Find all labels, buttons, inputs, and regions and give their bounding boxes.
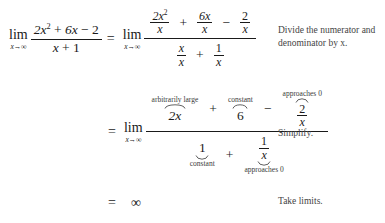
annotation-simplify: Simplify. bbox=[278, 127, 385, 140]
original-numerator: 2x2 + 6x − 2 bbox=[31, 23, 102, 39]
fraction: 2 x bbox=[297, 103, 307, 129]
fraction-x-over-x: x x bbox=[177, 42, 186, 68]
label-arbitrarily-large: arbitrarily large bbox=[152, 96, 199, 104]
simplified-numerator: arbitrarily large 2x + constant 6 − bbox=[146, 90, 328, 131]
limit-symbol: lim bbox=[9, 28, 28, 42]
divided-numerator: 2x2 x + 6x x − 2 x bbox=[144, 10, 256, 38]
denominator: x bbox=[214, 55, 224, 69]
labeled-term-6: constant 6 bbox=[228, 96, 253, 123]
term-1: 1 bbox=[190, 141, 215, 155]
labeled-term-2-over-x: approaches 0 2 x bbox=[283, 90, 322, 129]
fraction-2x2-over-x: 2x2 x bbox=[150, 10, 169, 36]
original-denominator: x + 1 bbox=[31, 39, 102, 56]
denominator: x bbox=[259, 148, 269, 162]
numerator: 2 bbox=[297, 103, 307, 116]
term-6x: 6x bbox=[65, 22, 78, 37]
limit-result-infinity: ∞ bbox=[131, 195, 141, 211]
numerator: 6x bbox=[197, 10, 212, 23]
divided-rational-expression: 2x2 x + 6x x − 2 x x x + 1 x bbox=[144, 10, 256, 68]
limit-symbol: lim bbox=[124, 121, 143, 135]
fraction: 1 x bbox=[259, 135, 269, 161]
plus-sign: + bbox=[219, 147, 241, 163]
numerator: 2 bbox=[240, 10, 250, 23]
equals-sign-3: = bbox=[108, 195, 116, 211]
numerator: 1 bbox=[214, 42, 224, 55]
divided-denominator: x x + 1 x bbox=[144, 38, 256, 68]
minus-sign: − bbox=[81, 22, 89, 37]
annotation-take-limits: Take limits. bbox=[278, 195, 385, 208]
derivation-step-3: = ∞ bbox=[108, 186, 278, 220]
fraction-2-over-x: 2 x bbox=[283, 103, 322, 129]
limit-operator-3: lim x→∞ bbox=[124, 121, 143, 144]
derivation-step-2: = lim x→∞ arbitrarily large 2x + constan… bbox=[108, 78, 278, 186]
derivation-step-1: lim x→∞ 2x2 + 6x − 2 x + 1 = lim x→∞ 2x2… bbox=[6, 0, 274, 78]
denominator: x bbox=[150, 22, 169, 36]
equals-sign-1: = bbox=[107, 31, 115, 47]
limit-operator-2: lim x→∞ bbox=[123, 28, 142, 51]
limit-subscript: x→∞ bbox=[9, 43, 28, 51]
fraction-6x-over-x: 6x x bbox=[197, 10, 212, 36]
denominator: x bbox=[240, 22, 250, 36]
numerator: 2x2 bbox=[150, 10, 169, 23]
exponent-2: 2 bbox=[164, 8, 168, 17]
labeled-term-2x: arbitrarily large 2x bbox=[152, 96, 199, 123]
limit-symbol: lim bbox=[123, 28, 142, 42]
minus-sign: − bbox=[257, 101, 279, 117]
original-rational-expression: 2x2 + 6x − 2 x + 1 bbox=[31, 23, 102, 55]
label-approaches-zero: approaches 0 bbox=[283, 90, 322, 98]
label-constant: constant bbox=[190, 160, 215, 168]
limit-subscript: x→∞ bbox=[124, 136, 143, 144]
labeled-term-1: 1 constant bbox=[190, 141, 215, 168]
term-2x: 2x bbox=[152, 109, 199, 123]
label-approaches-zero: approaches 0 bbox=[244, 166, 283, 174]
minus-sign: − bbox=[215, 15, 237, 31]
plus-sign: + bbox=[62, 40, 70, 55]
equals-sign-2: = bbox=[108, 124, 116, 140]
denominator: x bbox=[197, 22, 212, 36]
label-constant: constant bbox=[228, 96, 253, 104]
numerator: 1 bbox=[259, 135, 269, 148]
numerator: x bbox=[177, 42, 186, 55]
fraction-1-over-x: 1 x bbox=[214, 42, 224, 68]
term-x: x bbox=[53, 40, 59, 55]
term-2: 2 bbox=[92, 22, 99, 37]
fraction-2-over-x: 2 x bbox=[240, 10, 250, 36]
term-1: 1 bbox=[73, 40, 80, 55]
plus-sign: + bbox=[189, 47, 211, 63]
exponent-2: 2 bbox=[46, 21, 50, 30]
labeled-term-1-over-x: 1 x approaches 0 bbox=[244, 135, 283, 174]
denominator: x bbox=[177, 55, 186, 69]
plus-sign: + bbox=[172, 15, 194, 31]
term-6: 6 bbox=[228, 109, 253, 123]
plus-sign: + bbox=[202, 101, 224, 117]
plus-sign: + bbox=[54, 22, 62, 37]
term-2x-squared-base: 2x bbox=[34, 22, 47, 37]
annotation-divide: Divide the numerator and denominator by … bbox=[278, 24, 385, 50]
limit-subscript: x→∞ bbox=[123, 43, 142, 51]
limit-operator-1: lim x→∞ bbox=[9, 28, 28, 51]
